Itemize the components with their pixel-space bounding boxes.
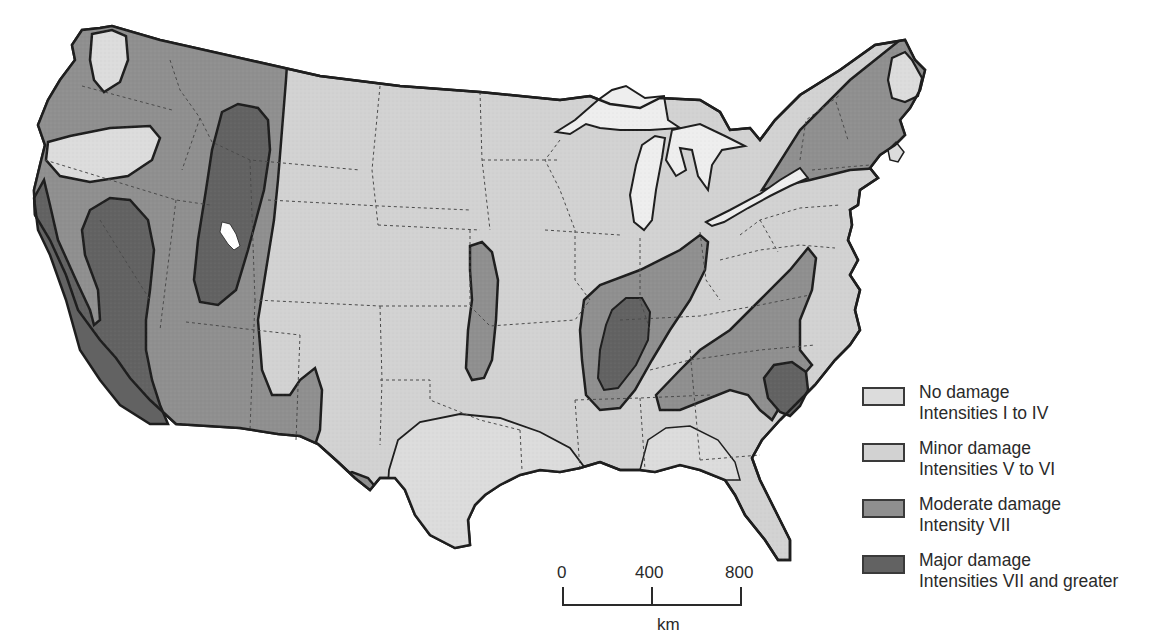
scale-tick-800: 800 [725,563,753,583]
legend-title: Moderate damage [919,494,1061,515]
legend-item-moderate-damage: Moderate damage Intensity VII [862,496,1162,552]
legend-swatch-no-damage [862,387,905,406]
legend-swatch-major-damage [862,555,905,574]
legend: No damage Intensities I to IV Minor dama… [862,384,1162,608]
legend-subtitle: Intensities I to IV [919,403,1048,424]
legend-subtitle: Intensities VII and greater [919,571,1118,592]
legend-item-no-damage: No damage Intensities I to IV [862,384,1162,440]
scale-bar-line [562,585,742,609]
scale-tick-400: 400 [635,563,663,583]
scale-bar: 0 400 800 km [552,563,762,640]
legend-subtitle: Intensities V to VI [919,459,1055,480]
legend-item-major-damage: Major damage Intensities VII and greater [862,552,1162,608]
legend-swatch-minor-damage [862,443,905,462]
legend-item-minor-damage: Minor damage Intensities V to VI [862,440,1162,496]
legend-title: No damage [919,382,1048,403]
scale-unit: km [657,615,680,635]
scale-tick-0: 0 [557,563,566,583]
legend-swatch-moderate-damage [862,499,905,518]
legend-subtitle: Intensity VII [919,515,1061,536]
legend-title: Major damage [919,550,1118,571]
legend-title: Minor damage [919,438,1055,459]
